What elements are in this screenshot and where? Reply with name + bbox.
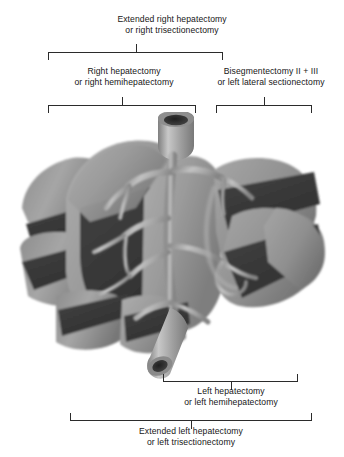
label-line-1: Extended right hepatectomy (0, 14, 344, 25)
bracket-left-hepatectomy (163, 374, 298, 382)
bracket-cap-left (70, 413, 71, 421)
liver-resection-figure: Extended right hepatectomy or right tris… (0, 0, 344, 457)
bracket-span (48, 52, 223, 53)
label-line-2: or left lateral sectionectomy (198, 77, 344, 88)
bracket-tick (122, 97, 123, 105)
label-line-2: or right trisectionectomy (0, 25, 344, 36)
label-line-2: or right hemihepatectomy (24, 77, 224, 88)
bracket-cap-left (163, 374, 164, 382)
label-extended-right-hepatectomy: Extended right hepatectomy or right tris… (0, 14, 344, 37)
bracket-extended-left-hepatectomy (70, 413, 312, 421)
bracket-span (216, 105, 312, 106)
label-line-1: Right hepatectomy (24, 66, 224, 77)
bracket-cap-left (48, 52, 49, 60)
label-extended-left-hepatectomy: Extended left hepatectomy or left trisec… (68, 426, 314, 449)
bracket-tick (264, 97, 265, 105)
liver-anatomy-illustration (18, 112, 330, 380)
label-bisegmentectomy: Bisegmentectomy II + III or left lateral… (198, 66, 344, 89)
label-line-1: Extended left hepatectomy (68, 426, 314, 437)
bracket-cap-right (297, 374, 298, 382)
label-right-hepatectomy: Right hepatectomy or right hemihepatecto… (24, 66, 224, 89)
bracket-cap-right (311, 413, 312, 421)
label-line-1: Bisegmentectomy II + III (198, 66, 344, 77)
bracket-cap-right (222, 52, 223, 60)
label-left-hepatectomy: Left hepatectomy or left hemihepatectomy (158, 386, 304, 409)
hepatic-vein-lumen (164, 115, 188, 125)
label-line-2: or left trisectionectomy (68, 437, 314, 448)
bracket-tick (136, 44, 137, 52)
label-line-2: or left hemihepatectomy (158, 397, 304, 408)
label-line-1: Left hepatectomy (158, 386, 304, 397)
bracket-extended-right-hepatectomy (48, 52, 223, 60)
bracket-span (48, 105, 196, 106)
